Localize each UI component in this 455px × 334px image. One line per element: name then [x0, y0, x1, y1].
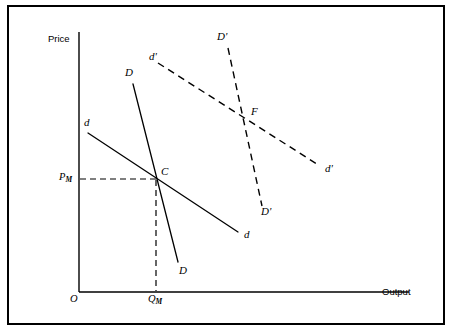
- y-axis-caption: Price: [48, 34, 70, 44]
- point-c-label: C: [161, 166, 168, 177]
- point-f-label: F: [251, 106, 258, 117]
- quantity-m-letter: Q: [148, 293, 156, 304]
- DD-prime-curve-label-upper: D': [217, 31, 227, 42]
- quantity-m-label: QM: [148, 294, 162, 305]
- x-axis-caption: Output: [382, 287, 411, 297]
- DD-curve-label-upper: D: [125, 67, 133, 78]
- DD-curve-label-lower: D: [179, 265, 187, 276]
- price-m-subscript: M: [65, 175, 72, 184]
- dd-curve: [88, 133, 238, 232]
- dd-curve-label-upper: d: [84, 117, 90, 128]
- quantity-m-subscript: M: [156, 297, 163, 306]
- price-m-label: PM: [59, 172, 72, 183]
- figure-root: Price Output O PM QM C F d d D D d' d' D…: [0, 0, 455, 334]
- DD-prime-curve-label-lower: D': [261, 206, 271, 217]
- dd-prime-curve-label-lower: d': [325, 163, 333, 174]
- DD-prime-curve: [228, 48, 262, 206]
- origin-label: O: [70, 294, 78, 305]
- dd-prime-curve-label-upper: d': [149, 51, 157, 62]
- diagram-canvas: [0, 0, 455, 334]
- dd-curve-label-lower: d: [244, 229, 250, 240]
- dd-prime-curve: [158, 63, 320, 166]
